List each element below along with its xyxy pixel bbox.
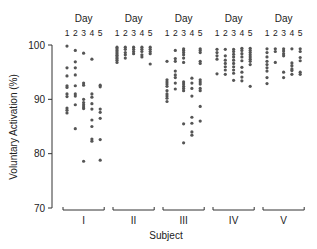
data-point bbox=[249, 60, 252, 63]
data-point bbox=[290, 73, 293, 76]
data-point bbox=[215, 58, 218, 61]
data-point bbox=[182, 56, 185, 59]
data-point bbox=[240, 66, 243, 69]
data-point bbox=[74, 103, 77, 106]
day-number-label: 2 bbox=[273, 28, 278, 38]
data-point bbox=[215, 51, 218, 54]
day-number-label: 5 bbox=[248, 28, 253, 38]
day-number-label: 5 bbox=[148, 28, 153, 38]
y-tick-label: 90 bbox=[34, 94, 46, 105]
day-headers: Day12345Day12345Day12345Day12345Day12345 bbox=[65, 13, 303, 38]
data-point bbox=[240, 71, 243, 74]
data-point bbox=[74, 60, 77, 63]
day-number-label: 5 bbox=[298, 28, 303, 38]
data-point bbox=[232, 62, 235, 65]
y-axis-label: Voluntary Activation (%) bbox=[8, 74, 19, 180]
data-point bbox=[99, 159, 102, 162]
data-point bbox=[265, 60, 268, 63]
data-point bbox=[190, 77, 193, 80]
subject-bracket bbox=[163, 207, 204, 210]
day-number-label: 2 bbox=[223, 28, 228, 38]
data-point bbox=[174, 76, 177, 79]
data-point bbox=[74, 73, 77, 76]
scatter-chart: 708090100 Day12345Day12345Day12345Day123… bbox=[0, 0, 317, 249]
data-point bbox=[240, 79, 243, 82]
data-point bbox=[82, 98, 85, 101]
data-point bbox=[232, 55, 235, 58]
data-point bbox=[90, 102, 93, 105]
data-point bbox=[282, 76, 285, 79]
data-point bbox=[265, 55, 268, 58]
day-number-label: 4 bbox=[140, 28, 145, 38]
data-point bbox=[232, 68, 235, 71]
data-point bbox=[190, 87, 193, 90]
data-point bbox=[65, 44, 68, 47]
day-number-label: 1 bbox=[165, 28, 170, 38]
day-number-label: 3 bbox=[81, 28, 86, 38]
subject-label: I bbox=[82, 215, 85, 226]
data-point bbox=[165, 89, 168, 92]
day-header: Day bbox=[225, 13, 243, 24]
data-point bbox=[199, 51, 202, 54]
data-point bbox=[190, 130, 193, 133]
data-point bbox=[174, 60, 177, 63]
data-point bbox=[90, 108, 93, 111]
data-point bbox=[215, 48, 218, 51]
data-point bbox=[149, 62, 152, 65]
data-point bbox=[174, 69, 177, 72]
subject-label: II bbox=[131, 215, 137, 226]
data-point bbox=[90, 96, 93, 99]
data-point bbox=[190, 134, 193, 137]
data-point bbox=[190, 94, 193, 97]
data-point bbox=[290, 69, 293, 72]
data-point bbox=[182, 89, 185, 92]
day-number-label: 2 bbox=[173, 28, 178, 38]
data-point bbox=[265, 82, 268, 85]
data-point bbox=[240, 59, 243, 62]
data-point bbox=[199, 119, 202, 122]
data-point bbox=[224, 68, 227, 71]
data-point bbox=[65, 95, 68, 98]
data-point bbox=[65, 74, 68, 77]
data-point bbox=[224, 54, 227, 57]
data-point bbox=[65, 111, 68, 114]
data-point bbox=[199, 83, 202, 86]
data-point bbox=[232, 72, 235, 75]
x-axis-label: Subject bbox=[149, 230, 183, 241]
subject-label: V bbox=[280, 215, 287, 226]
y-tick-label: 70 bbox=[34, 203, 46, 214]
data-point bbox=[224, 59, 227, 62]
data-point bbox=[265, 66, 268, 69]
day-number-label: 1 bbox=[115, 28, 120, 38]
data-point bbox=[199, 89, 202, 92]
subject-bracket bbox=[263, 207, 304, 210]
subject-label: IV bbox=[229, 215, 239, 226]
data-point bbox=[82, 160, 85, 163]
data-point bbox=[99, 111, 102, 114]
data-point bbox=[165, 85, 168, 88]
data-point bbox=[90, 118, 93, 121]
data-point bbox=[74, 84, 77, 87]
data-point bbox=[99, 117, 102, 120]
subject-bracket bbox=[63, 207, 104, 210]
data-point bbox=[90, 125, 93, 128]
data-point bbox=[182, 122, 185, 125]
data-point bbox=[240, 75, 243, 78]
data-point bbox=[215, 72, 218, 75]
day-number-label: 3 bbox=[131, 28, 136, 38]
data-point bbox=[90, 92, 93, 95]
data-point bbox=[265, 63, 268, 66]
data-point bbox=[282, 71, 285, 74]
data-point bbox=[124, 48, 127, 51]
data-point bbox=[174, 87, 177, 90]
day-number-label: 5 bbox=[98, 28, 103, 38]
data-point bbox=[99, 138, 102, 141]
day-number-label: 1 bbox=[65, 28, 70, 38]
data-point bbox=[274, 50, 277, 53]
data-point bbox=[165, 100, 168, 103]
data-point bbox=[74, 127, 77, 130]
data-point bbox=[265, 76, 268, 79]
data-point bbox=[74, 94, 77, 97]
day-number-label: 3 bbox=[181, 28, 186, 38]
day-number-label: 3 bbox=[231, 28, 236, 38]
